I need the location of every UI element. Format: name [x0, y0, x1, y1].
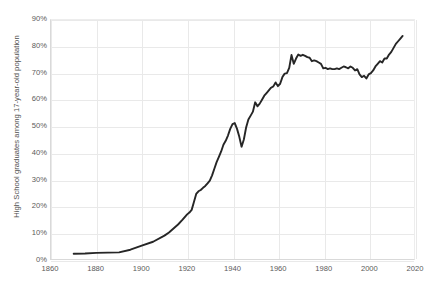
x-axis-tick-label: 2020 [395, 264, 429, 273]
y-axis-tick-label: 80% [3, 42, 47, 50]
y-axis-tick-label: 50% [3, 122, 47, 130]
x-axis-tick-label: 2000 [349, 264, 389, 273]
y-axis-tick-label: 30% [3, 176, 47, 184]
x-axis-tick-label: 1980 [304, 264, 344, 273]
x-axis-tick-label: 1940 [213, 264, 253, 273]
y-axis-tick-label: 10% [3, 229, 47, 237]
x-axis-tick-label: 1900 [121, 264, 161, 273]
x-axis-tick-label: 1960 [258, 264, 298, 273]
y-axis-tick-label: 70% [3, 69, 47, 77]
y-axis-tick-label: 20% [3, 202, 47, 210]
y-axis-tick-label: 40% [3, 149, 47, 157]
y-axis-tick-label: 60% [3, 95, 47, 103]
y-axis-tick-labels: 0%10%20%30%40%50%60%70%80%90% [0, 19, 47, 260]
x-axis-tick-label: 1880 [76, 264, 116, 273]
y-axis-tick-label: 90% [3, 15, 47, 23]
y-axis-tick-label: 0% [3, 256, 47, 264]
plot-area [50, 19, 415, 260]
x-axis-tick-label: 1860 [30, 264, 70, 273]
gridline-horizontal [51, 261, 414, 262]
data-series-line [51, 20, 414, 259]
gridline-vertical [416, 20, 417, 259]
line-chart: High School graduates among 17-year-old … [0, 0, 429, 285]
x-axis-tick-label: 1920 [167, 264, 207, 273]
x-axis-tick-labels: 186018801900192019401960198020002020 [50, 264, 415, 276]
